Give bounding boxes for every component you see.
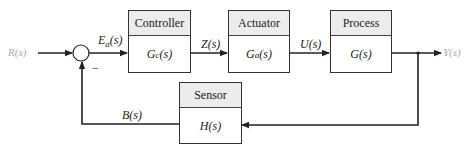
controller-transfer-function: Gc(s)	[129, 36, 190, 73]
actuator-output-label: U(s)	[300, 37, 321, 52]
process-block: Process G(s)	[330, 10, 392, 73]
output-label: Y(s)	[443, 46, 461, 58]
process-transfer-function: G(s)	[331, 36, 391, 73]
error-signal-label: Ea(s)	[98, 33, 123, 49]
minus-sign: −	[92, 61, 99, 76]
sensor-title: Sensor	[180, 83, 241, 108]
actuator-title: Actuator	[229, 11, 289, 36]
actuator-block: Actuator Ga(s)	[228, 10, 290, 73]
feedback-signal-label: B(s)	[122, 108, 142, 123]
sensor-transfer-function: H(s)	[180, 108, 241, 144]
controller-block: Controller Gc(s)	[128, 10, 191, 73]
input-label: R(s)	[8, 46, 26, 58]
actuator-transfer-function: Ga(s)	[229, 36, 289, 73]
summing-junction	[73, 45, 89, 61]
controller-title: Controller	[129, 11, 190, 36]
controller-output-label: Z(s)	[201, 37, 220, 52]
sensor-block: Sensor H(s)	[179, 82, 242, 144]
process-title: Process	[331, 11, 391, 36]
